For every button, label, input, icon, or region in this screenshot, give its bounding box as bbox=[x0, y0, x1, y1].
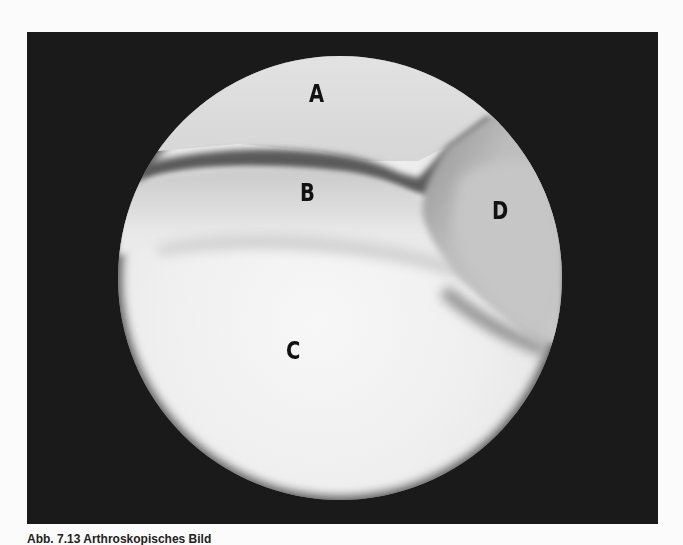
label-b: B bbox=[300, 180, 315, 205]
book-page: A B C D Abb. 7.13 Arthroskopisches Bild bbox=[0, 0, 683, 545]
figure-caption: Abb. 7.13 Arthroskopisches Bild bbox=[27, 533, 211, 545]
label-d: D bbox=[492, 198, 508, 223]
label-a: A bbox=[309, 81, 324, 106]
arthroscopic-anatomy-illustration bbox=[118, 56, 562, 500]
arthroscopic-view bbox=[118, 56, 562, 500]
photo-frame: A B C D bbox=[27, 32, 658, 524]
label-c: C bbox=[286, 338, 300, 363]
